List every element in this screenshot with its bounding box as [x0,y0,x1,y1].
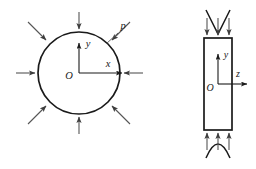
y-axis-label-right: y [223,49,229,60]
origin-label-left: O [65,70,73,81]
x-axis-label: x [105,58,111,69]
figure-container: x y O p [0,0,256,169]
y-axis-label-left: y [85,38,91,49]
z-axis-label: z [235,68,240,79]
origin-label-right: O [206,82,213,93]
pressure-label: p [119,20,125,31]
engineering-diagram-svg: x y O p [0,0,256,169]
